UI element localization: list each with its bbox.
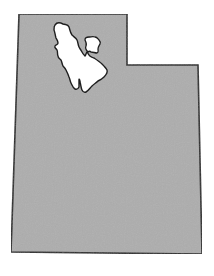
state-map (0, 0, 214, 276)
lake-east-arm-outline (85, 37, 100, 53)
map-container: Utah Great Salt Lake (0, 0, 214, 276)
